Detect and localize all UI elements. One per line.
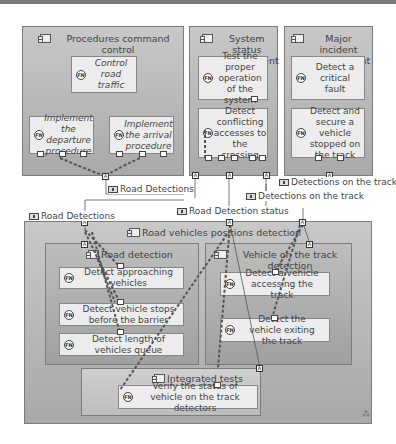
function-icon: FN (64, 273, 74, 283)
output-pin[interactable] (218, 155, 225, 161)
function-detect-length-queue[interactable]: FN Detect length of vehicles queue (59, 333, 184, 356)
function-detect-stops-before-barrier[interactable]: FN Detect vehicle stops before the barri… (59, 303, 184, 326)
output-pin[interactable] (80, 151, 87, 157)
exchange-label-road-detections-2[interactable]: Road Detections (29, 211, 115, 221)
port-system-status-2[interactable]: A (226, 172, 233, 179)
exchange-item-icon (279, 179, 289, 186)
output-pin[interactable] (37, 151, 44, 157)
component-icon (202, 34, 213, 43)
function-verify-status[interactable]: FN Verify the status of vehicle on the t… (118, 385, 258, 409)
exchange-item-icon (246, 193, 256, 200)
component-icon (216, 250, 227, 259)
input-pin[interactable] (117, 329, 124, 335)
component-icon (88, 250, 99, 259)
output-pin[interactable] (251, 96, 258, 102)
output-pin[interactable] (160, 151, 167, 157)
output-pin[interactable] (337, 155, 344, 161)
input-pin[interactable] (214, 382, 221, 388)
output-pin[interactable] (315, 155, 322, 161)
input-pin[interactable] (117, 299, 124, 305)
function-test-proper-operation[interactable]: FN Test the proper operation of the syst… (198, 56, 268, 100)
exchange-label-detections-on-track-2[interactable]: Detections on the track (246, 191, 364, 201)
function-detect-critical-fault[interactable]: FN Detect a critical fault (291, 56, 365, 100)
exchange-label-detections-on-track-1[interactable]: Detections on the track (279, 177, 396, 187)
port-vehicle-track-in[interactable]: A (306, 241, 313, 248)
output-pin[interactable] (139, 151, 146, 157)
component-icon (293, 34, 304, 43)
function-icon: FN (225, 279, 235, 289)
container-title: Procedures command control (40, 33, 183, 55)
output-pin[interactable] (116, 151, 123, 157)
function-icon: FN (203, 128, 213, 138)
function-detect-secure-vehicle[interactable]: FN Detect and secure a vehicle stopped o… (291, 108, 365, 158)
function-icon: FN (64, 340, 74, 350)
output-pin[interactable] (59, 151, 66, 157)
port-system-status-3[interactable]: A (263, 172, 270, 179)
function-icon: FN (76, 70, 86, 80)
function-implement-arrival[interactable]: FN Implement the arrival procedure (109, 116, 174, 154)
function-control-road-traffic[interactable]: FN Control road traffic (71, 56, 137, 93)
component-icon (129, 228, 140, 237)
function-icon: FN (296, 73, 306, 83)
container-vehicle-on-track-detection[interactable]: Vehicle on the track detection (205, 243, 352, 365)
exchange-item-icon (108, 186, 118, 193)
port-road-vehicles-in-3[interactable]: A (299, 219, 306, 226)
input-pin[interactable] (117, 263, 124, 269)
port-procedures-out[interactable]: A (102, 173, 109, 180)
exchange-label-road-detections-1[interactable]: Road Detections (108, 184, 194, 194)
container-title: Road detection (88, 249, 173, 260)
output-pin[interactable] (259, 155, 266, 161)
port-system-status-1[interactable]: A (192, 172, 199, 179)
function-icon: FN (64, 310, 74, 320)
port-road-vehicles-in-2[interactable]: A (226, 219, 233, 226)
port-road-detection-in[interactable]: A (81, 241, 88, 248)
function-detect-accessing-track[interactable]: FN Detect a vehicle accessing the track (220, 272, 330, 296)
exchange-label-road-detection-status[interactable]: Road Detection status (177, 206, 289, 216)
function-icon: FN (203, 73, 213, 83)
window-top-border (0, 0, 396, 4)
component-icon (40, 34, 51, 43)
resize-handle-icon[interactable]: ⁂ (362, 410, 370, 419)
output-pin[interactable] (249, 155, 256, 161)
port-integrated-tests-in[interactable]: A (256, 365, 263, 372)
input-pin[interactable] (271, 315, 278, 321)
function-icon: FN (34, 130, 44, 140)
function-detect-conflicting-accesses[interactable]: FN Detect conflicting accesses to the cr… (198, 108, 268, 158)
function-icon: FN (114, 130, 124, 140)
output-pin[interactable] (205, 155, 212, 161)
input-pin[interactable] (272, 269, 279, 275)
container-title: Road vehicles positions detection (129, 227, 301, 238)
exchange-item-icon (177, 208, 187, 215)
function-implement-departure[interactable]: FN Implement the departure procedure (29, 116, 94, 154)
function-detect-approaching-vehicles[interactable]: FN Detect approaching vehicles (59, 267, 184, 289)
function-detect-exiting-track[interactable]: FN Detect the vehicle exiting the track (220, 318, 330, 342)
function-icon: FN (123, 392, 133, 402)
output-pin[interactable] (231, 155, 238, 161)
function-icon: FN (225, 325, 235, 335)
function-icon: FN (296, 128, 306, 138)
exchange-item-icon (29, 213, 39, 220)
